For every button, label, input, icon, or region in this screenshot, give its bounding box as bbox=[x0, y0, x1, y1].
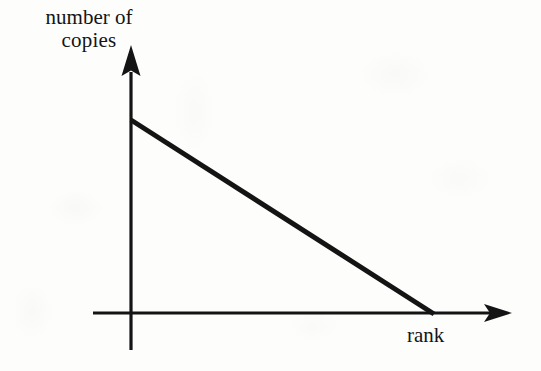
y-axis-label: number of copies bbox=[33, 6, 145, 51]
figure-canvas: number of copies rank bbox=[0, 0, 541, 371]
x-axis-label: rank bbox=[407, 324, 444, 347]
plot-area bbox=[0, 0, 541, 371]
data-series-line bbox=[131, 120, 434, 314]
y-axis-label-line-1: number of bbox=[33, 6, 145, 29]
y-axis-label-line-2: copies bbox=[33, 29, 145, 52]
